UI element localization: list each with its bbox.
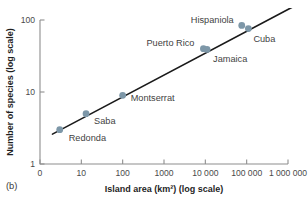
- x-tick-label: 1 000 000: [269, 168, 307, 178]
- data-point: [204, 46, 211, 53]
- x-tick-label: 0: [38, 168, 43, 178]
- data-point-label: Puerto Rico: [146, 38, 194, 48]
- data-point-label: Montserrat: [131, 93, 175, 103]
- data-point-label: Saba: [94, 116, 116, 126]
- y-tick-label: 100: [21, 15, 36, 25]
- panel-label: (b): [6, 180, 17, 191]
- data-point-label: Redonda: [69, 133, 107, 143]
- species-area-scatter-chart: 010100100010 000100 0001 000 000110100Re…: [0, 0, 308, 201]
- data-point-label: Hispaniola: [191, 15, 235, 25]
- data-point: [119, 92, 126, 99]
- x-tick-label: 1000: [154, 168, 173, 178]
- data-point: [56, 126, 63, 133]
- data-point: [83, 110, 90, 117]
- data-point: [238, 22, 245, 29]
- x-tick-label: 10 000: [192, 168, 219, 178]
- x-tick-label: 100 000: [231, 168, 262, 178]
- data-point: [245, 25, 252, 32]
- x-tick-label: 10: [77, 168, 87, 178]
- x-tick-label: 100: [115, 168, 130, 178]
- plot-mask-top: [0, 0, 308, 8]
- figure-panel-b: 010100100010 000100 0001 000 000110100Re…: [0, 0, 308, 201]
- data-point-label: Jamaica: [213, 54, 248, 64]
- y-tick-label: 10: [25, 87, 35, 97]
- y-axis-title: Number of species (log scale): [5, 28, 15, 156]
- y-tick-label: 1: [30, 159, 35, 169]
- data-point-label: Cuba: [253, 34, 276, 44]
- x-axis-title: Island area (km²) (log scale): [105, 184, 224, 194]
